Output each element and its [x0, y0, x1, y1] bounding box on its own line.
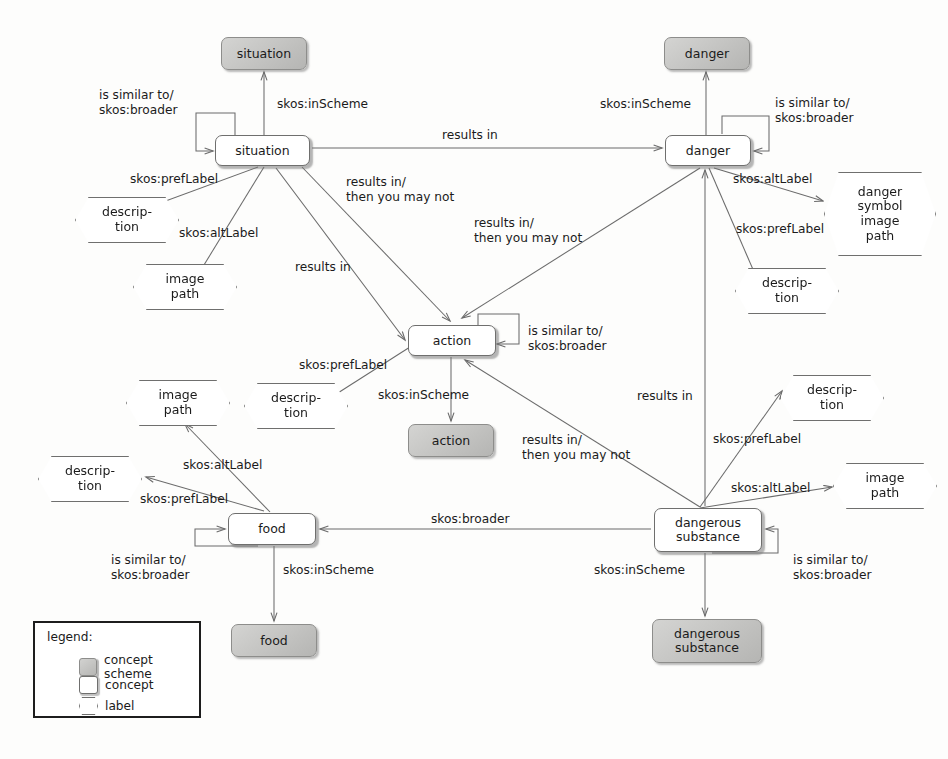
- edge-label-ds-preflabel: skos:prefLabel: [713, 432, 801, 447]
- label-node-dangerous-substance-image-path[interactable]: image path: [833, 463, 937, 509]
- label-node-dangerous-substance-description[interactable]: descrip- tion: [780, 375, 884, 421]
- edge-label-situation-self: is similar to/ skos:broader: [99, 88, 178, 119]
- legend-item-concept-label: concept: [105, 678, 154, 692]
- edge-label-situation-results-in-danger: results in: [442, 128, 498, 143]
- edge-label-food-altlabel: skos:altLabel: [183, 458, 262, 473]
- edge-label-situation-action-2: results in: [295, 260, 351, 275]
- label-swatch-icon: [79, 697, 98, 715]
- edge-label-ds-action: results in/ then you may not: [522, 433, 630, 464]
- legend-item-label-label: label: [105, 699, 134, 713]
- edge-label-danger-action: results in/ then you may not: [474, 216, 582, 247]
- legend-title: legend:: [47, 630, 93, 644]
- concept-node-dangerous-substance[interactable]: dangerous substance: [654, 508, 762, 552]
- scheme-node-situation[interactable]: situation: [221, 37, 307, 70]
- edge-label-ds-altlabel: skos:altLabel: [731, 481, 810, 496]
- legend-box: legend: concept scheme concept label: [33, 621, 201, 718]
- diagram-canvas: situation danger action food dangerous s…: [0, 0, 948, 759]
- edge-label-ds-inscheme: skos:inScheme: [594, 563, 685, 578]
- edge-label-food-self: is similar to/ skos:broader: [111, 553, 190, 584]
- concept-node-danger[interactable]: danger: [665, 135, 751, 166]
- label-node-action-description[interactable]: descrip- tion: [244, 383, 348, 429]
- edge-label-action-inscheme: skos:inScheme: [378, 388, 469, 403]
- edge-label-action-preflabel: skos:prefLabel: [299, 358, 387, 373]
- edge-label-ds-results-in-danger: results in: [637, 389, 693, 404]
- scheme-node-action[interactable]: action: [408, 424, 494, 457]
- edge-label-situation-inscheme: skos:inScheme: [277, 97, 368, 112]
- label-node-food-description[interactable]: descrip- tion: [38, 456, 142, 502]
- edge-label-danger-inscheme: skos:inScheme: [600, 97, 691, 112]
- edge-label-action-self: is similar to/ skos:broader: [528, 324, 607, 355]
- edge-label-situation-preflabel: skos:prefLabel: [130, 172, 218, 187]
- concept-swatch-icon: [79, 676, 98, 694]
- label-node-situation-description[interactable]: descrip- tion: [75, 197, 179, 243]
- edge-label-situation-altlabel: skos:altLabel: [179, 226, 258, 241]
- edge-label-food-inscheme: skos:inScheme: [283, 563, 374, 578]
- edge-label-ds-broader-food: skos:broader: [431, 512, 510, 527]
- edge-label-danger-altlabel: skos:altLabel: [733, 172, 812, 187]
- label-node-action-image-path[interactable]: image path: [126, 380, 230, 426]
- label-node-situation-image-path[interactable]: image path: [133, 264, 237, 310]
- legend-item-concept: concept: [79, 676, 154, 694]
- scheme-node-dangerous-substance[interactable]: dangerous substance: [652, 619, 762, 663]
- edge-label-situation-action-1: results in/ then you may not: [346, 175, 454, 206]
- edge-label-danger-preflabel: skos:prefLabel: [736, 222, 824, 237]
- edge-label-danger-self: is similar to/ skos:broader: [775, 96, 854, 127]
- label-node-danger-symbol-image-path[interactable]: danger symbol image path: [824, 172, 936, 256]
- scheme-node-danger[interactable]: danger: [664, 37, 750, 70]
- concept-node-food[interactable]: food: [228, 513, 316, 545]
- concept-node-situation[interactable]: situation: [215, 135, 310, 166]
- scheme-swatch-icon: [79, 658, 97, 676]
- label-node-danger-description[interactable]: descrip- tion: [735, 268, 839, 314]
- edge-label-food-preflabel: skos:prefLabel: [140, 492, 228, 507]
- legend-item-label: label: [79, 697, 134, 715]
- concept-node-action[interactable]: action: [408, 325, 496, 356]
- edge-label-ds-self: is similar to/ skos:broader: [793, 553, 872, 584]
- scheme-node-food[interactable]: food: [231, 624, 317, 657]
